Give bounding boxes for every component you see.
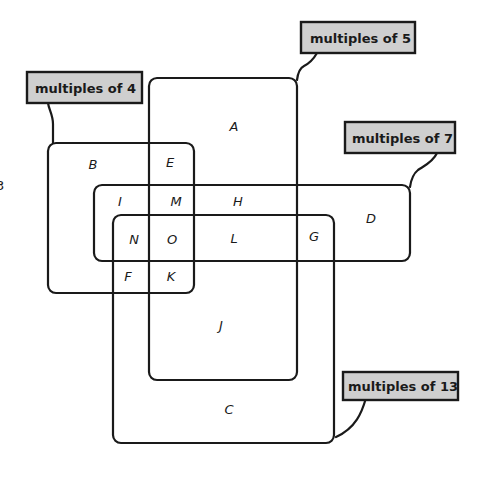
- label-text-multiples-of-13: multiples of 13: [348, 379, 458, 394]
- connector-multiples-of-4: [48, 103, 53, 143]
- label-multiples-of-4: multiples of 4: [27, 72, 142, 103]
- label-text-multiples-of-4: multiples of 4: [35, 81, 136, 96]
- set-box-multiples-of-7: [94, 185, 410, 261]
- label-multiples-of-13: multiples of 13: [343, 372, 458, 400]
- venn-diagram: multiples of 4 multiples of 5 multiples …: [0, 0, 485, 482]
- region-c: C: [224, 402, 234, 417]
- region-a: A: [229, 119, 239, 134]
- region-h: H: [233, 194, 243, 209]
- region-k: K: [167, 269, 177, 284]
- stray-mark: 3: [0, 178, 4, 193]
- label-multiples-of-5: multiples of 5: [301, 22, 415, 53]
- set-box-multiples-of-5: [149, 78, 297, 380]
- region-e: E: [166, 155, 175, 170]
- region-n: N: [129, 232, 139, 247]
- region-b: B: [89, 157, 98, 172]
- label-text-multiples-of-7: multiples of 7: [352, 131, 453, 146]
- label-text-multiples-of-5: multiples of 5: [310, 31, 411, 46]
- region-m: M: [170, 194, 181, 209]
- region-i: I: [118, 194, 122, 209]
- connector-multiples-of-13: [336, 398, 366, 437]
- region-g: G: [309, 229, 319, 244]
- region-f: F: [124, 269, 132, 284]
- label-multiples-of-7: multiples of 7: [345, 122, 455, 153]
- region-l: L: [230, 231, 237, 246]
- region-d: D: [366, 211, 376, 226]
- region-o: O: [167, 232, 177, 247]
- connector-multiples-of-5: [297, 53, 317, 80]
- connector-multiples-of-7: [410, 153, 437, 187]
- region-j: J: [216, 318, 223, 333]
